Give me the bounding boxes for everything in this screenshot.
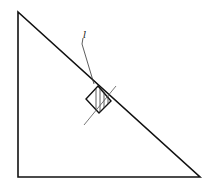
block-on-incline [86,86,111,113]
leader-line [82,38,94,84]
incline-diagram [0,0,214,191]
label-l: l [83,29,86,40]
